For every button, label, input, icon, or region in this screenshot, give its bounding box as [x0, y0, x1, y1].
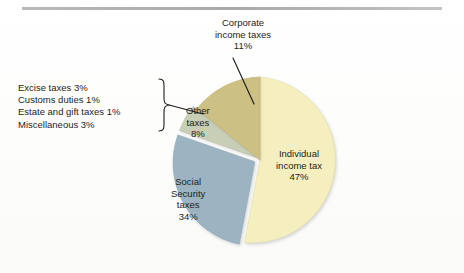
slice-label-individual-line2: income tax [276, 160, 322, 172]
slice-label-social-value: 34% [171, 211, 205, 223]
slice-label-other-taxes: Other taxes 8% [186, 105, 210, 140]
slice-label-other-value: 8% [186, 128, 210, 140]
slice-label-social-line3: taxes [171, 199, 205, 211]
slice-label-corporate-value: 11% [183, 40, 303, 52]
slice-label-corporate-income-taxes: Corporate income taxes 11% [183, 17, 303, 52]
slice-label-social-line1: Social [171, 176, 205, 188]
breakdown-item-customs-duties: Customs duties 1% [18, 94, 120, 106]
figure-canvas: Excise taxes 3% Customs duties 1% Estate… [0, 0, 464, 273]
slice-label-social-security-taxes: Social Security taxes 34% [171, 176, 205, 222]
slice-label-individual-value: 47% [276, 171, 322, 183]
slice-label-social-line2: Security [171, 188, 205, 200]
slice-label-other-line1: Other [186, 105, 210, 117]
other-taxes-breakdown-list: Excise taxes 3% Customs duties 1% Estate… [18, 82, 120, 131]
breakdown-item-excise-taxes: Excise taxes 3% [18, 82, 120, 94]
slice-label-individual-line1: Individual [276, 148, 322, 160]
slice-label-corporate-line2: income taxes [183, 29, 303, 41]
curly-brace-icon [159, 79, 169, 131]
slice-label-other-line2: taxes [186, 117, 210, 129]
slice-label-corporate-line1: Corporate [183, 17, 303, 29]
breakdown-item-estate-and-gift-taxes: Estate and gift taxes 1% [18, 106, 120, 118]
breakdown-item-miscellaneous: Miscellaneous 3% [18, 119, 120, 131]
slice-label-individual-income-tax: Individual income tax 47% [276, 148, 322, 183]
